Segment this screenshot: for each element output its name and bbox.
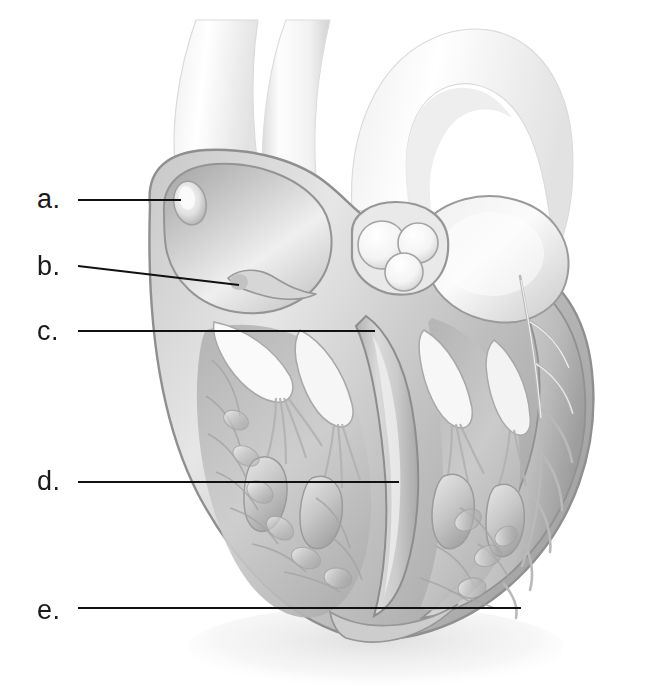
left-atrium-highlight xyxy=(440,212,544,296)
label-b: b. xyxy=(37,253,61,280)
label-a: a. xyxy=(37,186,61,213)
coronary-sinus-lumen xyxy=(230,274,248,290)
label-d: d. xyxy=(37,468,61,495)
label-c: c. xyxy=(37,318,59,345)
heart-illustration xyxy=(0,0,646,697)
heart-body-group xyxy=(149,150,593,690)
semilunar-cusp-lower xyxy=(385,253,423,291)
label-e: e. xyxy=(37,597,61,624)
heart-anatomy-figure: a. b. c. d. e. xyxy=(0,0,646,697)
pulmonary-trunk xyxy=(262,20,330,176)
